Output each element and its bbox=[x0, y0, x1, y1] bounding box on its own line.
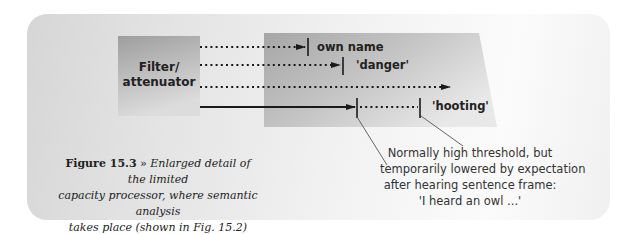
caption-separator: » bbox=[137, 157, 151, 170]
filter-attenuator-label: Filter/ attenuator bbox=[118, 60, 200, 90]
threshold-label-danger: 'danger' bbox=[356, 58, 409, 72]
figure-number: Figure 15.3 bbox=[65, 157, 136, 170]
threshold-label-hooting: 'hooting' bbox=[432, 99, 489, 113]
threshold-label-own-name: own name bbox=[317, 40, 383, 54]
figure-caption: Figure 15.3 » Enlarged detail of the lim… bbox=[58, 156, 258, 234]
threshold-annotation: Normally high threshold, but temporarily… bbox=[380, 145, 560, 209]
